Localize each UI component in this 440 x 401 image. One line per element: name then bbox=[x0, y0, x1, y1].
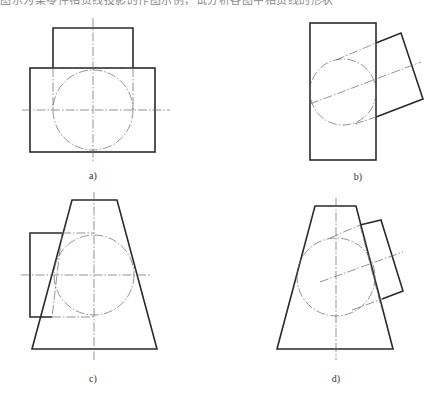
figure-b bbox=[310, 23, 423, 160]
boss-lower-hidden bbox=[352, 299, 382, 310]
frustum-outline bbox=[32, 200, 157, 349]
inclined-boss-outline bbox=[376, 33, 423, 117]
figure-d bbox=[277, 198, 403, 360]
figure-c-label: c) bbox=[89, 373, 97, 384]
figure-b-label: b) bbox=[354, 171, 362, 182]
junction-hidden bbox=[360, 225, 382, 310]
figure-c bbox=[21, 192, 157, 360]
boss-upper-hidden bbox=[330, 225, 360, 238]
inclined-centerline bbox=[320, 252, 403, 282]
section-circle bbox=[310, 59, 376, 125]
figure-a-label: a) bbox=[89, 170, 97, 181]
figure-d-label: d) bbox=[332, 373, 340, 384]
drawing-canvas bbox=[0, 0, 440, 401]
frustum-outline bbox=[277, 206, 393, 349]
boss-upper-hidden bbox=[336, 43, 376, 60]
figure-a bbox=[22, 18, 170, 163]
boss-lower-hidden bbox=[355, 117, 376, 124]
